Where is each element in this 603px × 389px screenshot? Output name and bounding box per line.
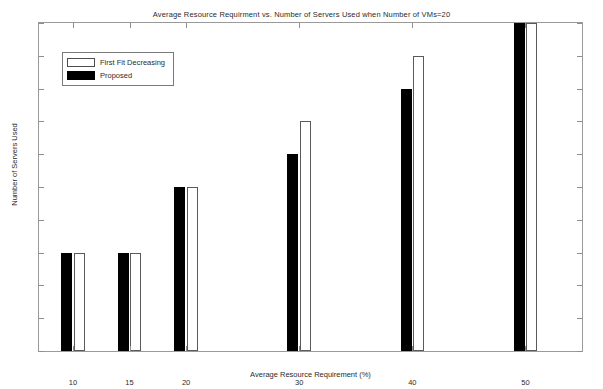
y-axis-tick: [577, 220, 582, 221]
y-axis-tick: [39, 56, 44, 57]
y-axis-tick: [39, 23, 44, 24]
bar-proposed: [174, 187, 185, 351]
bar-first-fit-decreasing: [526, 23, 537, 351]
legend: First Fit Decreasing Proposed: [62, 52, 174, 86]
x-axis-tick: [412, 23, 413, 28]
legend-entry-label: First Fit Decreasing: [100, 58, 165, 67]
bar-proposed: [61, 253, 72, 351]
legend-entry-proposed: Proposed: [67, 69, 169, 82]
y-axis-tick: [577, 253, 582, 254]
x-axis-label: Average Resource Requirement (%): [38, 370, 583, 379]
x-axis-tick: [130, 346, 131, 351]
y-axis-tick: [577, 351, 582, 352]
x-axis-tick: [412, 346, 413, 351]
black-bar-swatch-icon: [67, 71, 95, 80]
y-axis-tick: [577, 23, 582, 24]
bar-first-fit-decreasing: [413, 56, 424, 351]
y-axis-tick: [39, 318, 44, 319]
x-axis-tick: [525, 346, 526, 351]
x-axis-tick: [130, 23, 131, 28]
x-axis-tick-label: 30: [279, 378, 319, 387]
y-axis-tick: [577, 121, 582, 122]
y-axis-tick: [577, 285, 582, 286]
y-axis-tick: [39, 89, 44, 90]
x-axis-tick-label: 10: [53, 378, 93, 387]
x-axis-tick: [299, 23, 300, 28]
bar-proposed: [514, 23, 525, 351]
x-axis-tick: [299, 346, 300, 351]
bar-proposed: [401, 89, 412, 351]
x-axis-tick-label: 50: [505, 378, 545, 387]
white-bar-swatch-icon: [67, 58, 95, 67]
y-axis-tick: [39, 220, 44, 221]
x-axis-tick: [73, 346, 74, 351]
y-axis-tick: [39, 121, 44, 122]
y-axis-tick: [39, 285, 44, 286]
y-axis-label: Number of Servers Used: [10, 85, 19, 245]
x-axis-tick-label: 40: [392, 378, 432, 387]
y-axis-tick: [39, 154, 44, 155]
legend-entry-first-fit-decreasing: First Fit Decreasing: [67, 56, 169, 69]
y-axis-tick: [577, 56, 582, 57]
x-axis-tick: [186, 346, 187, 351]
bar-proposed: [118, 253, 129, 351]
bar-first-fit-decreasing: [74, 253, 85, 351]
legend-entry-label: Proposed: [100, 71, 132, 80]
bar-first-fit-decreasing: [130, 253, 141, 351]
y-axis-tick: [39, 253, 44, 254]
x-axis-tick: [73, 23, 74, 28]
x-axis-tick: [525, 23, 526, 28]
y-axis-tick: [577, 318, 582, 319]
y-axis-tick: [577, 187, 582, 188]
x-axis-tick-label: 20: [166, 378, 206, 387]
bar-first-fit-decreasing: [187, 187, 198, 351]
figure-canvas: Average Resource Requirment vs. Number o…: [0, 0, 603, 389]
bar-proposed: [287, 154, 298, 351]
y-axis-tick: [39, 351, 44, 352]
y-axis-tick: [577, 89, 582, 90]
x-axis-tick-label: 15: [110, 378, 150, 387]
y-axis-tick: [577, 154, 582, 155]
chart-title: Average Resource Requirment vs. Number o…: [0, 10, 603, 19]
y-axis-tick: [39, 187, 44, 188]
bar-first-fit-decreasing: [300, 121, 311, 351]
x-axis-tick: [186, 23, 187, 28]
